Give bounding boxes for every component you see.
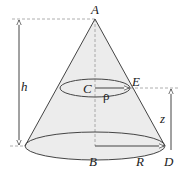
cone-diagram: A B C D E h z R ρ	[0, 0, 183, 176]
label-base-radius: R	[135, 154, 144, 169]
label-section-center: C	[83, 81, 92, 96]
label-base-edge: D	[163, 154, 174, 169]
label-height: h	[21, 79, 28, 94]
label-section-edge: E	[131, 74, 140, 89]
label-section-radius: ρ	[103, 88, 110, 103]
label-section-height: z	[159, 111, 165, 126]
label-apex: A	[90, 2, 99, 17]
label-base-center: B	[89, 154, 97, 169]
cone-svg: A B C D E h z R ρ	[0, 0, 183, 176]
